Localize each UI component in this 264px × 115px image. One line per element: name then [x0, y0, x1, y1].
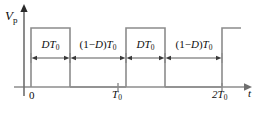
dimension-label-off-time-1: (1−D)T0: [66, 39, 130, 52]
dimension-label-on-time-2: DT0: [126, 39, 165, 52]
x-tick-label-2T0-base: 2T: [212, 88, 224, 100]
dim-1-D: D: [42, 38, 50, 50]
x-tick-label-T0-subscript: 0: [118, 93, 122, 102]
y-axis-arrowhead: [20, 4, 27, 12]
dimension-label-off-time-2: (1−D)T0: [162, 39, 226, 52]
dim-1-T-subscript: 0: [56, 43, 60, 52]
dim-4-open: (1−: [176, 38, 191, 50]
x-axis-label: t: [248, 88, 251, 99]
dim-2-arrowhead-left: [71, 56, 77, 60]
dim-4-arrowhead-right: [216, 56, 222, 60]
x-tick-label-2T0: 2T0: [212, 89, 227, 102]
y-axis-label-v: V: [5, 8, 13, 23]
dim-2-open: (1−: [80, 38, 95, 50]
dim-3-arrowhead-right: [159, 56, 165, 60]
dim-4-T-subscript: 0: [209, 43, 213, 52]
y-axis-label-subscript: p: [13, 15, 18, 25]
dim-1-arrowhead-left: [32, 56, 38, 60]
waveform-figure: Vp t 0 T0 2T0 DT0 (1−D)T0 DT0 (1−D)T0: [0, 0, 264, 115]
dim-1-arrowhead-right: [64, 56, 70, 60]
dim-4-D: D: [191, 38, 199, 50]
dim-2-arrowhead-right: [120, 56, 126, 60]
x-tick-label-T0: T0: [112, 89, 122, 102]
dim-2-T-subscript: 0: [113, 43, 117, 52]
dim-3-arrowhead-left: [127, 56, 133, 60]
y-axis-label: Vp: [5, 9, 18, 25]
x-tick-label-2T0-subscript: 0: [224, 93, 228, 102]
dim-3-T-subscript: 0: [151, 43, 155, 52]
dim-2-D: D: [95, 38, 103, 50]
dim-3-D: D: [137, 38, 145, 50]
x-tick-label-0: 0: [29, 90, 35, 101]
pulse-3: [222, 28, 241, 87]
dimension-label-on-time-1: DT0: [31, 39, 70, 52]
dim-4-arrowhead-left: [166, 56, 172, 60]
